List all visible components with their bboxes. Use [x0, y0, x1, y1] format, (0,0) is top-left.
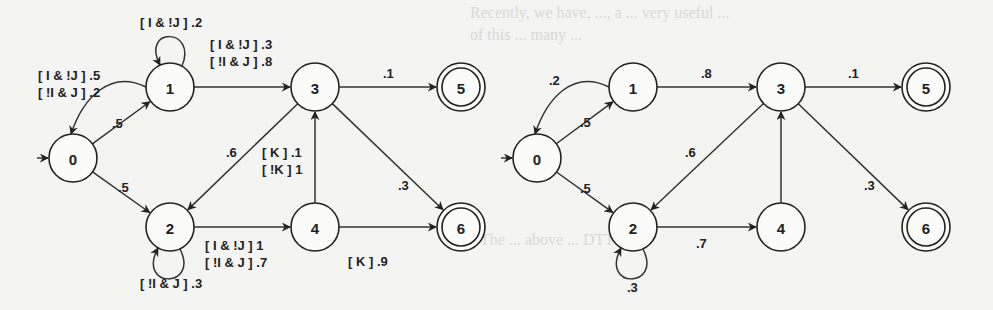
markov-chain-figure: Recently, we have, ..., a ... very usefu… — [0, 0, 993, 310]
transition-2-to-2: .3 — [616, 248, 647, 295]
transition-1-to-3: [ I & !J ] .3[ !I & J ] .8 — [194, 37, 290, 87]
transition-label: [ !I & J ] .2 — [38, 85, 100, 100]
transition-label: .7 — [696, 236, 707, 251]
state-label: 1 — [629, 80, 637, 97]
state-0: 0 — [49, 134, 97, 182]
transition-1-to-3: .8 — [657, 66, 756, 87]
state-1: 1 — [609, 63, 657, 111]
transition-label: .1 — [383, 66, 394, 81]
state-label: 6 — [922, 220, 930, 237]
transition-arrow — [153, 248, 184, 279]
transition-label: [ K ] .9 — [348, 254, 388, 269]
transition-3-to-6: .3 — [798, 104, 908, 210]
state-label: 0 — [533, 151, 541, 168]
final-state-5: 5 — [437, 63, 485, 111]
state-3: 3 — [291, 63, 339, 111]
transition-arrow — [651, 103, 763, 209]
state-4: 4 — [757, 203, 805, 251]
transition-label: [ !K ] 1 — [262, 162, 302, 177]
transition-label: .8 — [701, 66, 712, 81]
transition-label: .5 — [118, 180, 129, 195]
transition-label: .6 — [226, 145, 237, 160]
transition-label: [ I & !J ] .5 — [38, 68, 100, 83]
transition-0-to-2: .5 — [93, 172, 150, 213]
transition-label: [ I & !J ] .2 — [140, 15, 202, 30]
state-label: 0 — [69, 151, 77, 168]
state-0: 0 — [513, 134, 561, 182]
transition-1-to-1: [ I & !J ] .2 — [140, 15, 202, 66]
transition-3-to-5: .1 — [339, 66, 436, 87]
state-label: 4 — [777, 220, 786, 237]
transition-label: .3 — [627, 280, 638, 295]
final-state-6: 6 — [902, 203, 950, 251]
state-2: 2 — [609, 203, 657, 251]
transition-label: .1 — [848, 66, 859, 81]
state-label: 5 — [457, 80, 465, 97]
transition-2-to-2: [ !I & J ] .3 — [140, 248, 202, 291]
state-3: 3 — [757, 63, 805, 111]
transition-0-to-2: .5 — [556, 172, 612, 212]
bleed-line: of this ... many ... — [470, 26, 582, 44]
transition-1-to-0: .2 — [535, 73, 609, 134]
transition-label: .2 — [549, 73, 560, 88]
transition-label: [ !I & J ] .7 — [205, 255, 267, 270]
state-label: 1 — [166, 80, 174, 97]
transition-4-to-6: [ K ] .9 — [339, 227, 436, 269]
state-label: 2 — [166, 220, 174, 237]
state-label: 3 — [311, 80, 319, 97]
transition-label: .5 — [580, 115, 591, 130]
transition-label: .3 — [398, 178, 409, 193]
state-label: 6 — [457, 220, 465, 237]
state-1: 1 — [146, 63, 194, 111]
state-label: 3 — [777, 80, 785, 97]
transition-label: [ I & !J ] .3 — [210, 37, 272, 52]
transition-label: [ K ] .1 — [262, 145, 302, 160]
bleed-line: Recently, we have, ..., a ... very usefu… — [470, 4, 729, 22]
left-automaton: .5.5[ I & !J ] .5[ !I & J ] .2[ I & !J ]… — [37, 15, 485, 291]
transition-3-to-2: .6 — [651, 103, 763, 209]
transition-3-to-6: .3 — [332, 104, 443, 210]
transition-label: .5 — [580, 181, 591, 196]
state-label: 4 — [311, 220, 320, 237]
right-automaton: .5.5.2.8.3.7.6.1.30123456 — [501, 63, 950, 295]
final-state-6: 6 — [437, 203, 485, 251]
state-4: 4 — [291, 203, 339, 251]
transition-label: [ !I & J ] .3 — [140, 276, 202, 291]
transition-label: .5 — [112, 116, 123, 131]
final-state-5: 5 — [902, 63, 950, 111]
state-label: 2 — [629, 220, 637, 237]
state-label: 5 — [922, 80, 930, 97]
transition-label: [ !I & J ] .8 — [210, 54, 272, 69]
transition-1-to-0: [ I & !J ] .5[ !I & J ] .2 — [38, 68, 146, 134]
transition-arrow — [798, 104, 908, 210]
transition-2-to-4: .7 — [657, 227, 756, 251]
background-bleed-text: Recently, we have, ..., a ... very usefu… — [470, 4, 729, 248]
transition-arrow — [156, 37, 185, 66]
transition-arrow — [332, 104, 443, 210]
transition-arrow — [535, 82, 609, 134]
transition-2-to-4: [ I & !J ] 1[ !I & J ] .7 — [194, 227, 290, 270]
transition-label: .6 — [685, 145, 696, 160]
transition-arrow — [616, 248, 647, 279]
transition-3-to-5: .1 — [805, 66, 901, 87]
transition-4-to-3: [ K ] .1[ !K ] 1 — [262, 112, 315, 203]
state-2: 2 — [146, 203, 194, 251]
transition-0-to-1: .5 — [92, 102, 149, 144]
transition-label: .3 — [864, 178, 875, 193]
transition-label: [ I & !J ] 1 — [205, 238, 264, 253]
transition-0-to-1: .5 — [556, 102, 613, 144]
